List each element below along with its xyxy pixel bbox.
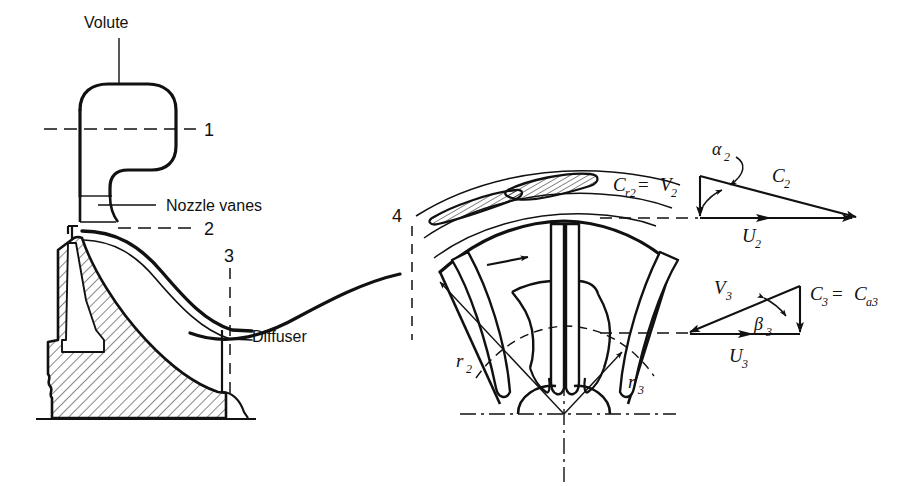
station-4-label: 4 — [392, 206, 402, 226]
Ca3-label-sub: a3 — [866, 295, 878, 309]
rotor-blade-centre-right — [566, 224, 579, 394]
r2-label-sub: 2 — [466, 362, 472, 376]
diffuser-label: Diffuser — [252, 328, 308, 345]
alpha2-label-base: α — [712, 139, 722, 159]
nozzle-vanes-label: Nozzle vanes — [166, 197, 262, 214]
r3-label-sub: 3 — [637, 383, 644, 397]
r2-label-base: r — [456, 350, 464, 371]
station-3-label: 3 — [224, 246, 234, 266]
station-1-label: 1 — [204, 120, 214, 140]
U2-label-sub: 2 — [755, 237, 761, 251]
Cr2-equals: = — [638, 174, 649, 195]
r3-label-base: r — [628, 371, 636, 392]
Cr2-label-sub: r2 — [625, 186, 636, 200]
V2-label-sub: 2 — [671, 186, 677, 200]
C3-equals: = — [832, 283, 843, 304]
beta3-label-sub: 3 — [765, 325, 772, 339]
radial-turbine-diagram: Volute Nozzle vanes 1 2 3 Diffuser — [0, 0, 900, 487]
V3-label-sub: 3 — [725, 289, 732, 303]
station-2-label: 2 — [204, 219, 214, 239]
alpha2-label-sub: 2 — [724, 150, 730, 164]
volute-label: Volute — [84, 14, 129, 31]
C3-label-sub: 3 — [821, 295, 828, 309]
figure-root: Volute Nozzle vanes 1 2 3 Diffuser — [0, 0, 900, 487]
rotor-blade-centre-left — [551, 224, 564, 394]
beta3-label-base: β — [753, 314, 763, 334]
U3-label-sub: 3 — [741, 357, 748, 371]
C2-label-sub: 2 — [784, 177, 790, 191]
